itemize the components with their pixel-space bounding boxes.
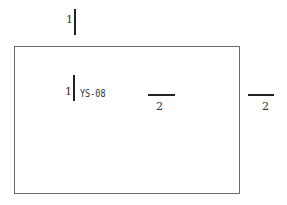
right-section-cut-line — [248, 94, 274, 96]
inner-section-number: 1 — [65, 86, 72, 97]
room-outline-frame — [14, 46, 240, 194]
middle-section-number: 2 — [156, 101, 163, 112]
middle-section-cut-line — [148, 94, 175, 96]
right-section-number: 2 — [262, 101, 269, 112]
section-tag-label: YS-08 — [80, 89, 106, 99]
top-section-number: 1 — [66, 14, 73, 25]
top-section-cut-line — [74, 9, 76, 35]
inner-section-cut-line — [73, 75, 75, 101]
